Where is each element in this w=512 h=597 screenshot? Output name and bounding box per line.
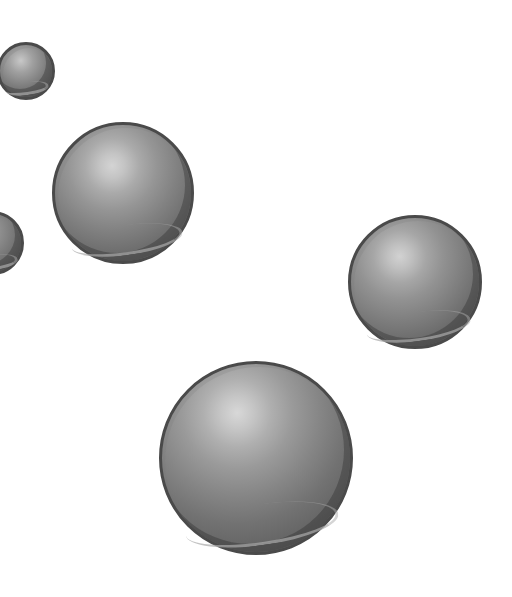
sphere-partial-left-edge [0,211,24,275]
sphere-large-bottom [159,361,353,555]
sphere-medium-left [52,122,194,264]
sphere-small-top-left [0,42,55,100]
sphere-medium-right [348,215,482,349]
